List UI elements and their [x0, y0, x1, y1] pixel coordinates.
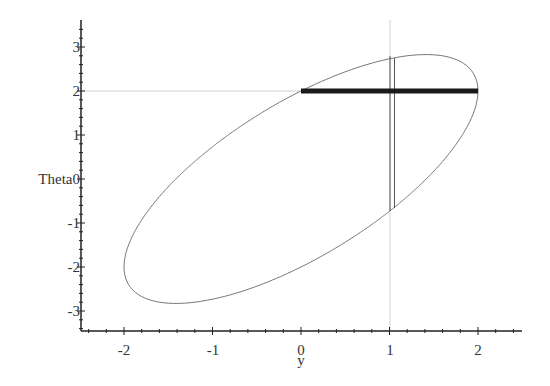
y-tick-label: 3	[73, 39, 81, 55]
y-axis-label: Theta0	[38, 171, 80, 187]
x-axis	[81, 327, 522, 335]
y-tick-label: 1	[73, 127, 81, 143]
x-axis-label: y	[297, 352, 305, 368]
x-tick-label: 2	[474, 342, 482, 358]
y-tick-label: 2	[73, 83, 81, 99]
x-tick-label: 1	[386, 342, 394, 358]
y-tick-label: -1	[68, 215, 81, 231]
x-tick-label: -2	[118, 342, 131, 358]
x-tick-label: -1	[207, 342, 220, 358]
y-tick-label: -3	[68, 303, 81, 319]
y-tick-label: -2	[68, 259, 81, 275]
plot-area: -2 -1 0 1 2 y 3 2 1 Theta0 -1 -2 -3	[0, 0, 550, 386]
